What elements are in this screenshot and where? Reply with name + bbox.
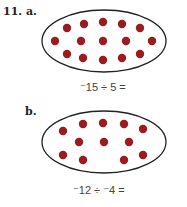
group-b-counters [42,111,166,173]
expression-a: ⁻15 ÷ 5 = [80,81,126,94]
counter-dots-a [51,18,156,64]
part-b-label: b. [25,105,37,118]
group-a-counters [42,10,166,72]
expression-b: ⁻12 ÷ ⁻4 = [73,184,125,197]
counter-diagrams [0,0,187,207]
counter-dots-b [59,119,147,164]
